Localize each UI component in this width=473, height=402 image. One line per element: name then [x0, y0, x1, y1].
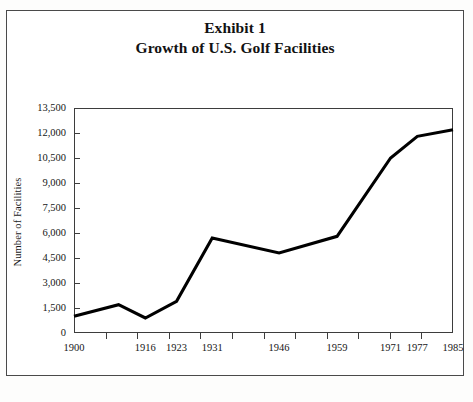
x-axis-tick-label: 1985	[443, 343, 464, 354]
x-axis-tick-mark	[390, 333, 391, 339]
x-axis-tick-label: 1923	[166, 343, 187, 354]
x-axis-tick-label: 1977	[407, 343, 428, 354]
x-axis-tick-label: 1931	[202, 343, 223, 354]
x-axis-tick-mark	[106, 333, 107, 339]
x-axis-tick-mark	[295, 333, 296, 339]
chart-title-line-2: Growth of U.S. Golf Facilities	[6, 38, 464, 58]
x-axis-tick-mark	[327, 333, 328, 339]
chart-title-block: Exhibit 1 Growth of U.S. Golf Facilities	[6, 18, 464, 58]
chart-title-line-1: Exhibit 1	[6, 18, 464, 38]
series-line-number-of-facilities	[74, 130, 453, 318]
x-axis-tick-mark	[264, 333, 265, 339]
x-axis-tick-mark	[421, 333, 422, 339]
series-plot	[74, 108, 453, 333]
x-axis-tick-mark	[358, 333, 359, 339]
x-axis-tick-label: 1971	[380, 343, 401, 354]
x-axis-tick-label: 1900	[64, 343, 85, 354]
x-axis-tick-label: 1916	[135, 343, 156, 354]
y-axis-title-label: Number of Facilities	[12, 142, 23, 302]
x-axis-tick-label: 1959	[327, 343, 348, 354]
y-axis-title: Number of Facilities	[12, 0, 30, 142]
x-axis-tick-mark	[232, 333, 233, 339]
x-axis-tick-mark	[137, 333, 138, 339]
x-axis-tick-mark	[200, 333, 201, 339]
figure-root: Exhibit 1 Growth of U.S. Golf Facilities…	[0, 0, 473, 402]
x-axis-tick-label: 1946	[269, 343, 290, 354]
x-axis-tick-mark	[169, 333, 170, 339]
